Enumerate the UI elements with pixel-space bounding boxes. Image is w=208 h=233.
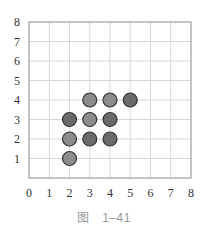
y-tick-label: 2 [14,132,20,146]
x-tick-label: 4 [107,186,113,200]
y-tick-label: 7 [14,35,20,49]
data-point-dark [83,132,97,146]
x-tick-label: 2 [67,186,73,200]
x-tick-label: 7 [168,186,174,200]
data-point-light [83,93,97,107]
x-tick-label: 3 [87,186,93,200]
data-point-dark [63,113,77,127]
x-tick-label: 1 [46,186,52,200]
y-tick-label: 5 [14,74,20,88]
y-tick-label: 4 [14,93,20,107]
data-point-dark [103,132,117,146]
y-tick-label: 6 [14,54,20,68]
data-point-light [103,93,117,107]
x-tick-label: 5 [127,186,133,200]
figure-caption: 图 1–41 [0,208,208,225]
y-tick-label: 1 [14,152,20,166]
y-tick-label: 8 [14,15,20,29]
data-point-dark [123,93,137,107]
data-point-light [63,152,77,166]
x-tick-label: 8 [188,186,194,200]
data-points [63,93,138,166]
x-axis-ticks: 012345678 [26,186,194,200]
data-point-light [83,113,97,127]
y-axis-ticks: 12345678 [14,15,20,166]
scatter-chart: 012345678 12345678 [0,0,208,205]
y-tick-label: 3 [14,113,20,127]
x-tick-label: 0 [26,186,32,200]
data-point-light [63,132,77,146]
x-tick-label: 6 [148,186,154,200]
data-point-dark [103,113,117,127]
